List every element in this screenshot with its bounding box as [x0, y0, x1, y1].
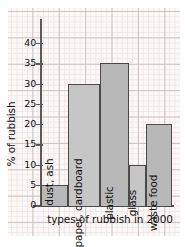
y-tick-mark-25 — [36, 104, 43, 105]
y-tick-mark-30 — [36, 84, 43, 85]
y-tick-label-35: 35 — [24, 57, 36, 68]
x-axis-title: types of rubbish in 2000 — [40, 213, 180, 225]
y-tick-label-25: 25 — [24, 98, 36, 109]
y-axis-title: % of rubbish — [5, 94, 17, 174]
y-tick-mark-20 — [36, 124, 43, 125]
bar-dust-ash: dust, ash — [41, 185, 68, 207]
bar-waste-food: waste food — [146, 124, 172, 207]
bar-label-glass: glass — [126, 189, 138, 215]
bar-glass: glass — [129, 165, 146, 207]
bar-label-dust-ash: dust, ash — [43, 158, 55, 205]
bar-plastic: plastic — [100, 63, 129, 206]
y-tick-label-40: 40 — [24, 37, 36, 48]
y-tick-mark-40 — [36, 43, 43, 44]
y-tick-label-20: 20 — [24, 118, 36, 129]
y-tick-mark-10 — [36, 165, 43, 166]
y-tick-label-15: 15 — [24, 138, 36, 149]
y-tick-mark-15 — [36, 144, 43, 145]
y-tick-label-30: 30 — [24, 78, 36, 89]
y-axis-line — [40, 19, 42, 206]
bar-label-paper-cardboard: paper, cardboard — [72, 158, 84, 247]
y-tick-label-10: 10 — [24, 159, 36, 170]
y-tick-mark-35 — [36, 63, 43, 64]
bar-paper-cardboard: paper, cardboard — [68, 84, 100, 207]
